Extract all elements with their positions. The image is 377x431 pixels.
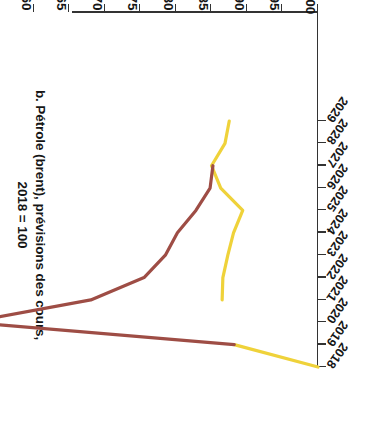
- chart-title-line-1: b. Pétrole (brent), prévisions des cours…: [33, 90, 48, 340]
- year-tick-2021: [318, 299, 326, 300]
- price-tick-label-95: 95: [268, 0, 283, 11]
- price-tick-label-85: 85: [197, 0, 212, 11]
- year-tick-2020: [318, 321, 326, 322]
- price-tick-label-60: 60: [19, 0, 34, 11]
- year-tick-2029: [318, 120, 326, 121]
- chart-title-line-2: 2018 = 100: [13, 16, 31, 416]
- year-tick-2023: [318, 254, 326, 255]
- chart-title: b. Pétrole (brent), prévisions des cours…: [4, 0, 58, 431]
- price-tick-label-90: 90: [232, 0, 247, 11]
- price-tick-label-65: 65: [55, 0, 70, 11]
- series-line-1: [212, 121, 243, 300]
- year-tick-2022: [318, 276, 326, 277]
- year-tick-2019: [318, 343, 326, 344]
- price-tick-label-80: 80: [161, 0, 176, 11]
- year-tick-2027: [318, 164, 326, 165]
- chart-figure: b. Pétrole (brent), prévisions des cours…: [0, 0, 377, 431]
- plot-area: 2018201920202021202220232024202520262027…: [72, 12, 318, 367]
- year-tick-2024: [318, 231, 326, 232]
- year-tick-2026: [318, 187, 326, 188]
- price-tick-label-75: 75: [126, 0, 141, 11]
- series-lines: [72, 12, 318, 367]
- year-tick-2028: [318, 142, 326, 143]
- price-tick-label-70: 70: [90, 0, 105, 11]
- series-line-1: [234, 345, 318, 367]
- year-tick-2025: [318, 209, 326, 210]
